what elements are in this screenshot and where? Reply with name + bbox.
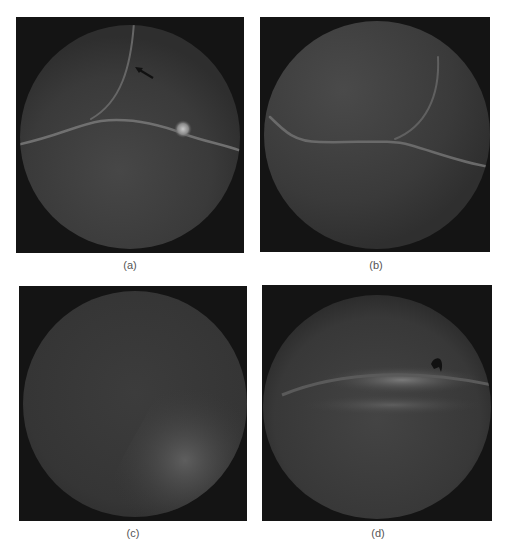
panel-d-caption: (d) xyxy=(348,527,408,539)
arrowhead-marker-icon xyxy=(429,356,445,374)
panel-a-caption: (a) xyxy=(100,259,160,271)
panel-a-image xyxy=(16,17,244,253)
panel-d-image xyxy=(262,285,492,521)
bright-spot xyxy=(174,120,192,138)
panel-b-image xyxy=(260,17,490,252)
panel-b-caption: (b) xyxy=(346,259,406,271)
arrow-icon xyxy=(133,64,159,82)
panel-c-caption: (c) xyxy=(103,527,163,539)
panel-c-image xyxy=(19,286,247,521)
